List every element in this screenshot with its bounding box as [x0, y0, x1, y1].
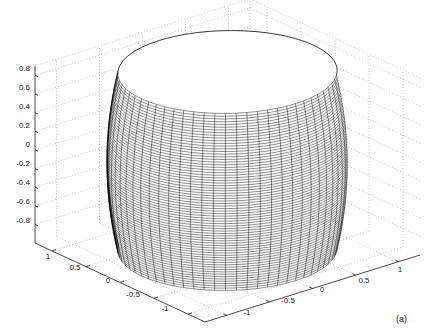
z-tick-label: -0.4 — [16, 178, 30, 187]
x-tick-label: 0 — [320, 285, 325, 294]
y-tick-label: -0.5 — [126, 290, 140, 299]
z-tick-label: -0.6 — [16, 197, 30, 206]
z-tick-label: 0.4 — [19, 102, 31, 111]
x-tick-label: 1 — [398, 265, 403, 274]
y-tick-label: 0.5 — [69, 263, 81, 272]
z-tick-label: 0 — [26, 140, 31, 149]
panel-label: (a) — [396, 314, 407, 324]
cylinder-mesh-surface — [107, 31, 347, 291]
z-tick-label: -0.2 — [16, 159, 30, 168]
x-tick-label: 0.5 — [358, 276, 370, 285]
z-tick-label: 0.8 — [19, 64, 31, 73]
x-tick-label: -0.5 — [281, 296, 295, 305]
y-tick-label: 1 — [46, 252, 51, 261]
x-tick-label: -1 — [243, 308, 251, 317]
surface-plot: 0.8 0.6 0.4 0.2 0 -0.2 -0.4 -0.6 -0.8 1 … — [0, 0, 432, 331]
z-tick-label: -0.8 — [16, 216, 30, 225]
y-tick-label: 0 — [106, 276, 111, 285]
y-tick-label: -1 — [161, 304, 169, 313]
z-tick-label: 0.6 — [19, 83, 31, 92]
z-tick-label: 0.2 — [19, 121, 31, 130]
